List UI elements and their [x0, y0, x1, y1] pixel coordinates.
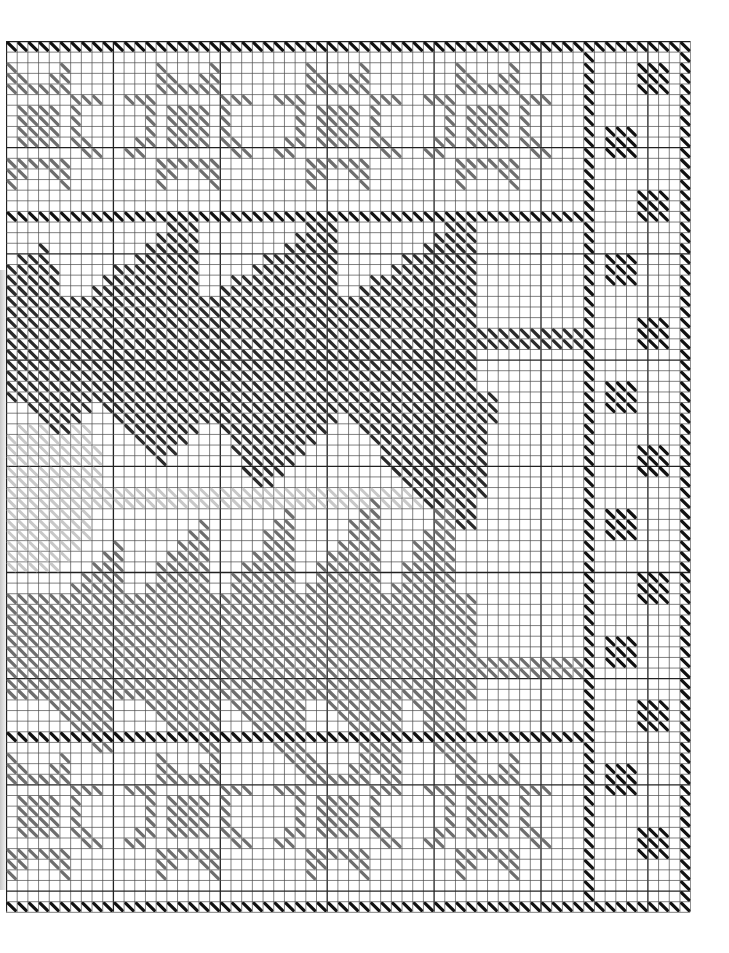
cross-stitch-chart [6, 41, 691, 913]
stitch-grid [6, 41, 691, 913]
